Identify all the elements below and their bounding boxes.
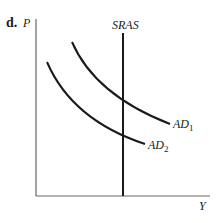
ad1-curve bbox=[72, 42, 170, 124]
ad-sras-diagram: d. P Y SRAS AD1 AD2 bbox=[0, 0, 223, 223]
ad2-label-text: AD bbox=[148, 138, 164, 152]
diagram-canvas bbox=[0, 0, 223, 223]
ad2-curve bbox=[47, 62, 145, 144]
ad1-label: AD1 bbox=[173, 118, 194, 133]
ad2-label-subscript: 2 bbox=[164, 144, 169, 154]
y-axis-label: P bbox=[23, 17, 30, 29]
panel-label: d. bbox=[6, 16, 17, 30]
x-axis-label: Y bbox=[199, 200, 206, 212]
ad2-label: AD2 bbox=[148, 139, 169, 154]
ad1-label-subscript: 1 bbox=[189, 123, 194, 133]
ad1-label-text: AD bbox=[173, 117, 189, 131]
sras-label: SRAS bbox=[112, 19, 139, 31]
